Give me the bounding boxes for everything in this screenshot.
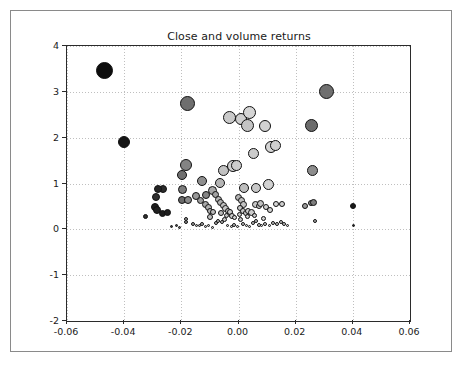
y-tick-label-3: 1 [36,177,59,188]
scatter-point [310,199,317,206]
scatter-point [232,215,237,220]
scatter-point [164,209,171,216]
x-tick-mark-4 [295,320,296,324]
scatter-point [207,224,210,227]
x-tick-label-3: 0.00 [227,326,248,337]
scatter-point [243,106,256,119]
page-title: Close and volume returns [66,30,412,43]
scatter-point [305,119,318,132]
scatter-point [286,224,289,227]
scatter-point [251,183,261,193]
y-tick-label-5: 3 [36,85,59,96]
x-tick-mark-1 [123,320,124,324]
scatter-point [170,225,173,228]
scatter-point [215,178,225,188]
scatter-point [178,226,181,229]
scatter-point [226,224,229,227]
y-tick-label-1: -1 [36,269,59,280]
scatter-point [231,160,242,171]
scatter-point [259,120,271,132]
y-tick-label-2: 0 [36,223,59,234]
scatter-point [352,224,355,227]
scatter-point [261,216,266,221]
x-tick-mark-3 [238,320,239,324]
x-tick-mark-6 [409,320,410,324]
scatter-point [263,179,274,190]
scatter-point [239,183,249,193]
scatter-point [152,193,160,201]
scatter-points [67,46,410,321]
x-tick-label-4: 0.02 [284,326,305,337]
y-tick-label-0: -2 [36,315,59,326]
scatter-point [319,84,334,99]
y-tick-mark-6 [62,45,66,46]
y-tick-label-6: 4 [36,40,59,51]
scatter-point [241,119,254,132]
scatter-point [279,201,285,207]
scatter-point [245,214,250,219]
matplotlib-figure: Close and volume returns -0.06-0.04-0.02… [0,0,462,365]
x-tick-label-6: 0.06 [398,326,419,337]
scatter-point [307,165,318,176]
x-tick-label-5: 0.04 [341,326,362,337]
scatter-point [118,136,130,148]
scatter-point [223,111,236,124]
scatter-point [302,203,308,209]
x-tick-mark-2 [180,320,181,324]
y-tick-mark-3 [62,183,66,184]
plot-axes [66,45,411,322]
scatter-point [211,226,214,229]
scatter-point [263,222,267,226]
scatter-point [237,212,242,217]
scatter-point [313,219,317,223]
y-tick-mark-5 [62,91,66,92]
scatter-point [267,207,273,213]
x-tick-mark-5 [352,320,353,324]
scatter-point [180,96,195,111]
scatter-point [96,62,113,79]
scatter-point [184,196,192,204]
scatter-point [178,185,187,194]
y-tick-mark-4 [62,137,66,138]
scatter-point [207,214,213,220]
scatter-point [252,213,257,218]
scatter-point [270,140,281,151]
x-tick-label-0: -0.06 [54,326,79,337]
scatter-point [143,214,148,219]
scatter-point [177,170,187,180]
y-tick-mark-2 [62,228,66,229]
x-tick-mark-0 [66,320,67,324]
scatter-point [197,176,207,186]
scatter-point [350,203,356,209]
scatter-point [248,148,259,159]
x-tick-label-1: -0.04 [111,326,136,337]
y-tick-mark-0 [62,320,66,321]
x-tick-label-2: -0.02 [168,326,193,337]
scatter-point [224,213,229,218]
scatter-point [236,225,239,228]
y-tick-label-4: 2 [36,131,59,142]
scatter-point [248,225,251,228]
y-tick-mark-1 [62,274,66,275]
